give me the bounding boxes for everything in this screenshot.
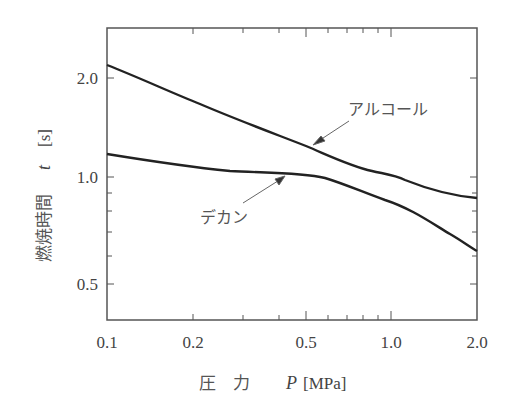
y-axis-title-cjk: 燃焼時間 [34, 194, 54, 262]
annotation-arrows [243, 121, 349, 203]
y-axis-unit: [s] [35, 129, 54, 147]
x-tick-label: 1.0 [380, 333, 401, 352]
x-tick-label: 2.0 [466, 333, 487, 352]
x-axis-unit: [MPa] [303, 374, 346, 393]
series-line-decane [107, 154, 477, 251]
series-line-alcohol [107, 65, 477, 198]
annotation-decane: デカン [200, 208, 248, 227]
x-axis-variable: P [285, 373, 297, 393]
y-tick-label: 0.5 [77, 275, 98, 294]
y-axis-variable: t [34, 164, 54, 170]
x-tick-label: 0.5 [295, 333, 316, 352]
x-tick-label: 0.2 [182, 333, 203, 352]
annotation-alcohol: アルコール [348, 100, 428, 119]
y-tick-label: 2.0 [77, 69, 98, 88]
x-axis-title: 圧 力 [199, 373, 250, 393]
x-tick-label: 0.1 [96, 333, 117, 352]
chart: 2.0 1.0 0.5 0.1 0.2 0.5 1.0 2.0 アルコール デカ… [0, 0, 515, 408]
y-tick-label: 1.0 [77, 168, 98, 187]
y-axis-title: 燃焼時間 t [s] [34, 129, 54, 262]
